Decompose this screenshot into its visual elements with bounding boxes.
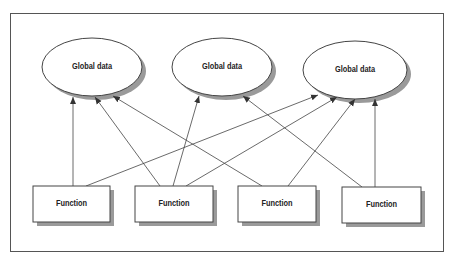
- global-data-label: Global data: [59, 61, 125, 71]
- arrow-f3-to-g3: [288, 99, 355, 186]
- function-label: Function: [40, 198, 103, 208]
- function-label: Function: [349, 199, 414, 209]
- arrow-f3-to-g1: [113, 96, 262, 186]
- edge-layer: [73, 95, 375, 187]
- function-label: Function: [142, 198, 206, 208]
- arrow-f2-to-g1: [95, 97, 160, 186]
- function-label: Function: [245, 198, 309, 208]
- arrow-f1-to-g3: [86, 95, 318, 186]
- global-data-diagram: [0, 0, 452, 262]
- global-data-label: Global data: [189, 61, 255, 71]
- arrow-f2-to-g2: [173, 96, 199, 186]
- global-data-label: Global data: [322, 64, 388, 74]
